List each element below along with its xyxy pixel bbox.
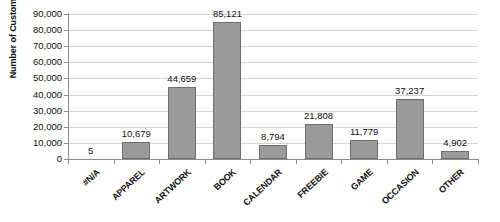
x-axis-category-label: ARTWORK — [145, 167, 193, 213]
x-axis-category-label: #N/A — [54, 167, 102, 213]
x-axis-category-label: GAME — [327, 167, 375, 213]
bar-chart: Number of Customers 010,00020,00030,0004… — [0, 0, 500, 222]
x-axis-category-label: APPAREL — [99, 167, 147, 213]
x-axis-category-label: OCCASION — [373, 167, 421, 213]
x-axis-category-label: OTHER — [418, 167, 466, 213]
x-axis-category-label: BOOK — [190, 167, 238, 213]
x-axis-category-label: CALENDAR — [236, 167, 284, 213]
x-axis-category-label: FREEBIE — [282, 167, 330, 213]
x-axis-labels: #N/AAPPARELARTWORKBOOKCALENDARFREEBIEGAM… — [0, 0, 500, 222]
